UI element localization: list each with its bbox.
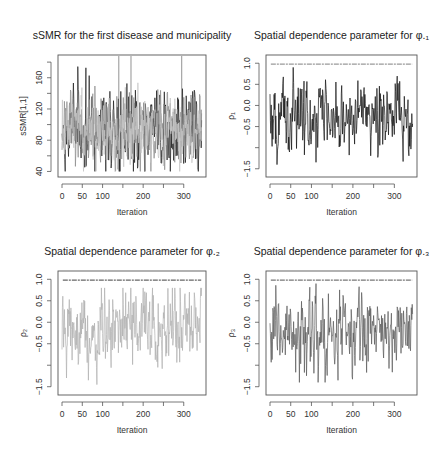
y-tick-label: −1.5 <box>242 378 252 395</box>
y-tick-label: 1.0 <box>242 273 252 285</box>
x-tick-label: 300 <box>387 191 401 201</box>
plot-area <box>62 56 202 171</box>
x-tick-label: 0 <box>268 409 273 419</box>
y-tick-label: 0.5 <box>242 78 252 90</box>
y-tick-label: −0.5 <box>242 335 252 352</box>
trace-line-chain-1 <box>62 288 202 385</box>
x-tick-label: 300 <box>177 409 191 419</box>
y-tick-label: 0.5 <box>242 295 252 307</box>
panel-title: Spatial dependence parameter for φ.₁ <box>254 29 429 41</box>
plot-frame <box>266 55 417 177</box>
x-tick-label: 50 <box>78 191 88 201</box>
y-tick-label: 0.0 <box>34 316 44 328</box>
x-tick-label: 100 <box>95 191 109 201</box>
y-tick-label: 0.0 <box>242 99 252 111</box>
x-axis-label: Iteration <box>326 207 357 217</box>
x-tick-label: 0 <box>60 191 65 201</box>
panel-title: sSMR for the first disease and municipal… <box>33 29 232 41</box>
y-tick-label: 80 <box>34 135 44 145</box>
panel-rho-3: Spatial dependence parameter for φ.₃ Ite… <box>226 245 429 435</box>
y-axis-label: sSMR[1,1] <box>18 96 28 136</box>
y-tick-label: 1.0 <box>34 273 44 285</box>
x-tick-label: 50 <box>286 409 296 419</box>
x-axis-label: Iteration <box>117 425 148 435</box>
x-tick-label: 0 <box>60 409 65 419</box>
y-tick-label: 0.0 <box>242 316 252 328</box>
panel-rho-1: Spatial dependence parameter for φ.₁ Ite… <box>226 29 429 217</box>
x-tick-label: 300 <box>177 191 191 201</box>
y-tick-label: −0.5 <box>34 335 44 352</box>
y-axis-label: ρ₁ <box>226 112 236 120</box>
x-tick-label: 100 <box>304 191 318 201</box>
y-tick-label: 40 <box>34 166 44 176</box>
x-axis: 050100200300 <box>60 402 191 419</box>
panel-title: Spatial dependence parameter for φ.₂ <box>44 245 220 257</box>
x-tick-label: 200 <box>136 409 150 419</box>
plot-area <box>270 64 413 165</box>
y-tick-label: −0.5 <box>242 118 252 135</box>
x-tick-label: 50 <box>78 409 88 419</box>
y-tick-label: 0.5 <box>34 295 44 307</box>
x-axis-label: Iteration <box>117 207 148 217</box>
x-tick-label: 200 <box>346 409 360 419</box>
trace-line-chain-1 <box>270 284 413 383</box>
y-tick-label: −1.5 <box>34 378 44 395</box>
y-tick-label: 120 <box>34 102 44 116</box>
y-axis: 4080120160 <box>34 62 51 176</box>
x-tick-label: 0 <box>268 191 273 201</box>
x-tick-label: 50 <box>286 191 296 201</box>
trace-line-chain-1 <box>270 67 413 164</box>
y-axis: −1.5−0.50.00.51.0 <box>34 273 51 395</box>
panel-rho-2: Spatial dependence parameter for φ.₂ Ite… <box>18 245 220 435</box>
y-axis: −1.5−0.50.00.51.0 <box>242 57 259 177</box>
x-tick-label: 200 <box>346 191 360 201</box>
y-tick-label: 160 <box>34 70 44 84</box>
x-tick-label: 100 <box>304 409 318 419</box>
y-axis-label: ρ₃ <box>226 329 236 337</box>
plot-area <box>62 280 202 384</box>
y-tick-label: −1.5 <box>242 160 252 177</box>
panel-ssmr: sSMR for the first disease and municipal… <box>18 29 232 217</box>
y-tick-label: 1.0 <box>242 57 252 69</box>
y-axis-label: ρ₂ <box>18 329 28 337</box>
x-axis: 050100200300 <box>268 184 402 201</box>
x-tick-label: 300 <box>387 409 401 419</box>
x-axis: 050100200300 <box>268 402 402 419</box>
x-tick-label: 200 <box>136 191 150 201</box>
plot-area <box>270 280 413 382</box>
trace-plot-figure: sSMR for the first disease and municipal… <box>0 0 445 455</box>
x-tick-label: 100 <box>95 409 109 419</box>
y-axis: −1.5−0.50.00.51.0 <box>242 273 259 395</box>
panel-title: Spatial dependence parameter for φ.₃ <box>254 245 430 257</box>
x-axis: 050100200300 <box>60 184 191 201</box>
x-axis-label: Iteration <box>326 425 357 435</box>
